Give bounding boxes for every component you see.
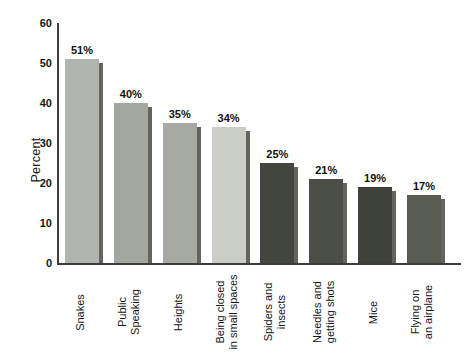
- bar-value-label: 51%: [71, 44, 93, 56]
- x-category-label: Being closed in small spaces: [214, 267, 240, 357]
- x-category-label: Heights: [171, 267, 184, 357]
- x-category-label: Spiders and insects: [262, 267, 288, 357]
- bar-value-label: 34%: [218, 112, 240, 124]
- x-category-slot: Flying on an airplane: [405, 266, 443, 358]
- y-tick-label: 50: [18, 57, 52, 70]
- bar-group: 21%: [309, 179, 347, 263]
- x-category-label: Public Speaking: [116, 267, 142, 357]
- bar: [212, 127, 246, 263]
- bar-group: 25%: [260, 163, 298, 263]
- y-tick-label: 0: [18, 257, 52, 270]
- y-tick-label: 10: [18, 217, 52, 230]
- bar-shadow: [294, 167, 298, 263]
- bar-shadow: [197, 127, 201, 263]
- bar-shadow: [246, 131, 250, 263]
- x-axis-labels: SnakesPublic SpeakingHeightsBeing closed…: [57, 266, 459, 358]
- y-tick-label: 20: [18, 177, 52, 190]
- x-category-label: Needles and getting shots: [311, 267, 337, 357]
- x-category-slot: Spiders and insects: [258, 266, 296, 358]
- bar-chart: Percent 0102030405060 51%40%35%34%25%21%…: [0, 0, 464, 359]
- x-category-slot: Public Speaking: [112, 266, 150, 358]
- bar-shadow: [148, 107, 152, 263]
- bar: [114, 103, 148, 263]
- y-axis-ticks: 0102030405060: [18, 0, 52, 359]
- bar-group: 51%: [65, 59, 103, 263]
- bar-group: 17%: [407, 195, 445, 263]
- bar-group: 35%: [163, 123, 201, 263]
- bar-group: 40%: [114, 103, 152, 263]
- bar-value-label: 21%: [315, 164, 337, 176]
- y-tick-label: 60: [18, 17, 52, 30]
- y-tick-label: 30: [18, 137, 52, 150]
- bar: [407, 195, 441, 263]
- x-category-slot: Snakes: [63, 266, 101, 358]
- x-category-slot: Mice: [356, 266, 394, 358]
- plot-area: 51%40%35%34%25%21%19%17%: [57, 23, 461, 265]
- bar-shadow: [392, 191, 396, 263]
- bar-value-label: 40%: [120, 88, 142, 100]
- bar-shadow: [441, 199, 445, 263]
- bar-group: 34%: [212, 127, 250, 263]
- bars-row: 51%40%35%34%25%21%19%17%: [59, 23, 461, 263]
- bar: [260, 163, 294, 263]
- bar-value-label: 35%: [169, 108, 191, 120]
- bar-shadow: [99, 63, 103, 263]
- bar-value-label: 25%: [266, 148, 288, 160]
- bar: [309, 179, 343, 263]
- x-category-label: Snakes: [74, 267, 87, 357]
- bar-group: 19%: [358, 187, 396, 263]
- x-category-slot: Heights: [161, 266, 199, 358]
- x-category-label: Flying on an airplane: [409, 267, 435, 357]
- x-category-slot: Being closed in small spaces: [210, 266, 248, 358]
- y-tick-label: 40: [18, 97, 52, 110]
- bar-shadow: [343, 183, 347, 263]
- bar-value-label: 19%: [364, 172, 386, 184]
- x-category-slot: Needles and getting shots: [307, 266, 345, 358]
- x-category-label: Mice: [367, 267, 380, 357]
- bar: [163, 123, 197, 263]
- bar: [358, 187, 392, 263]
- bar: [65, 59, 99, 263]
- bar-value-label: 17%: [413, 180, 435, 192]
